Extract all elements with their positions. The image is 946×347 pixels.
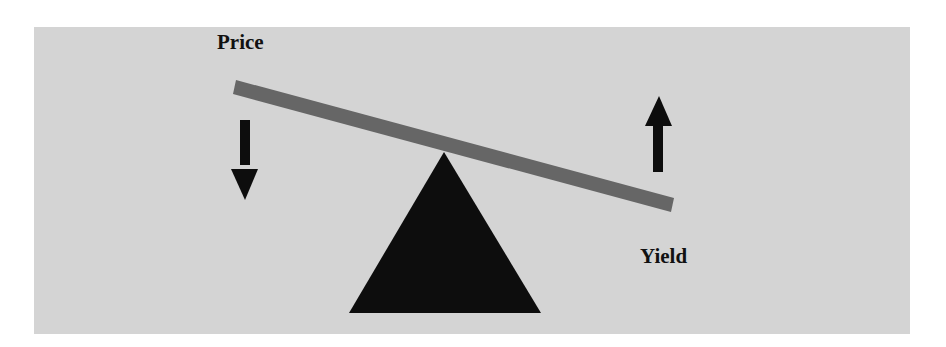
price-label: Price	[217, 30, 264, 55]
fulcrum-triangle	[349, 152, 541, 313]
arrow-up-icon	[645, 96, 672, 172]
diagram-canvas: Price Yield	[0, 0, 946, 347]
arrow-down-icon	[231, 120, 258, 200]
yield-label: Yield	[640, 244, 687, 269]
seesaw-graphic	[0, 0, 946, 347]
